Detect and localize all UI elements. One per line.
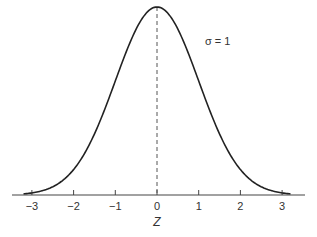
x-tick-label: 2: [237, 200, 243, 212]
x-tick-label: −2: [67, 200, 80, 212]
x-tick-label: 0: [154, 200, 160, 212]
sigma-annotation: σ = 1: [205, 35, 230, 47]
x-axis-ticks: −3−2−10123: [26, 190, 286, 212]
normal-distribution-chart: −3−2−10123 σ = 1 Z: [0, 0, 317, 237]
x-tick-label: 3: [279, 200, 285, 212]
x-tick-label: −3: [26, 200, 39, 212]
x-tick-label: −1: [109, 200, 122, 212]
x-tick-label: 1: [196, 200, 202, 212]
x-axis-label: Z: [152, 215, 161, 229]
